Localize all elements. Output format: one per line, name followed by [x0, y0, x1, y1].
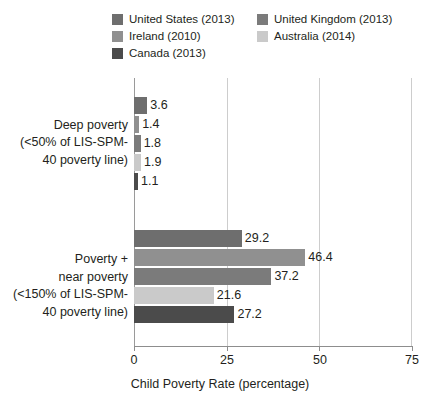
bar[interactable]: [134, 306, 234, 323]
bar-value-label: 1.8: [144, 137, 161, 150]
legend-item[interactable]: Australia (2014): [257, 28, 432, 44]
category-label-line: 40 poverty line): [4, 304, 128, 322]
bar[interactable]: [134, 287, 214, 304]
bar-row: 37.2: [134, 268, 299, 285]
bar-value-label: 46.4: [308, 251, 332, 264]
bar-value-label: 1.1: [141, 175, 158, 188]
legend-item[interactable]: United States (2013): [112, 11, 257, 27]
gridline-50: [319, 78, 320, 346]
chart-container: United States (2013)Ireland (2010)Canada…: [0, 0, 440, 407]
legend-item[interactable]: United Kingdom (2013): [257, 11, 432, 27]
x-axis-line: [134, 346, 413, 347]
bar-value-label: 37.2: [274, 270, 298, 283]
bar-value-label: 29.2: [245, 232, 269, 245]
category-label-line: near poverty: [4, 269, 128, 287]
legend-item[interactable]: Ireland (2010): [112, 28, 257, 44]
x-axis-title: Child Poverty Rate (percentage): [0, 377, 440, 391]
bar-row: 29.2: [134, 230, 269, 247]
bar-row: 1.8: [134, 135, 161, 152]
gridline-75: [411, 78, 412, 346]
bar-value-label: 1.4: [142, 118, 159, 131]
category-label-line: 40 poverty line): [4, 152, 128, 170]
x-tick-mark-25: [227, 346, 228, 351]
bar-row: 1.4: [134, 116, 160, 133]
chart-legend: United States (2013)Ireland (2010)Canada…: [112, 11, 432, 61]
bar-value-label: 21.6: [217, 289, 241, 302]
bar[interactable]: [134, 268, 271, 285]
category-label: Deep poverty(<50% of LIS-SPM-40 poverty …: [4, 117, 128, 170]
bar-row: 3.6: [134, 97, 168, 114]
x-tick-label-0: 0: [131, 353, 138, 367]
legend-item-label: Ireland (2010): [129, 30, 201, 42]
legend-swatch-icon: [257, 31, 268, 42]
bar[interactable]: [134, 230, 242, 247]
legend-column-1: United Kingdom (2013)Australia (2014): [257, 11, 432, 61]
category-label-line: Poverty +: [4, 251, 128, 269]
category-label-line: (<150% of LIS-SPM-: [4, 286, 128, 304]
x-tick-mark-0: [134, 346, 135, 351]
legend-item-label: Canada (2013): [129, 47, 206, 59]
bar-row: 1.1: [134, 173, 158, 190]
bar-value-label: 3.6: [150, 99, 167, 112]
x-tick-label-75: 75: [405, 353, 419, 367]
category-label-line: Deep poverty: [4, 117, 128, 135]
legend-item[interactable]: Canada (2013): [112, 45, 257, 61]
bar-value-label: 27.2: [237, 308, 261, 321]
x-tick-mark-75: [412, 346, 413, 351]
bar[interactable]: [134, 173, 138, 190]
category-label-line: (<50% of LIS-SPM-: [4, 134, 128, 152]
category-label-group: Deep poverty(<50% of LIS-SPM-40 poverty …: [0, 0, 128, 407]
bar-row: 46.4: [134, 249, 333, 266]
x-tick-label-25: 25: [220, 353, 234, 367]
bar[interactable]: [134, 249, 305, 266]
bar-row: 27.2: [134, 306, 262, 323]
bar[interactable]: [134, 116, 139, 133]
legend-item-label: Australia (2014): [274, 30, 355, 42]
legend-swatch-icon: [257, 14, 268, 25]
legend-item-label: United States (2013): [129, 13, 234, 25]
bar[interactable]: [134, 97, 147, 114]
bar[interactable]: [134, 135, 141, 152]
legend-column-0: United States (2013)Ireland (2010)Canada…: [112, 11, 257, 61]
bar-row: 1.9: [134, 154, 161, 171]
x-tick-label-50: 50: [313, 353, 327, 367]
bar[interactable]: [134, 154, 141, 171]
category-label: Poverty +near poverty(<150% of LIS-SPM-4…: [4, 251, 128, 321]
legend-item-label: United Kingdom (2013): [274, 13, 392, 25]
bar-value-label: 1.9: [144, 156, 161, 169]
x-tick-mark-50: [319, 346, 320, 351]
plot-area: 3.61.41.81.91.129.246.437.221.627.2: [134, 78, 412, 346]
bar-row: 21.6: [134, 287, 241, 304]
